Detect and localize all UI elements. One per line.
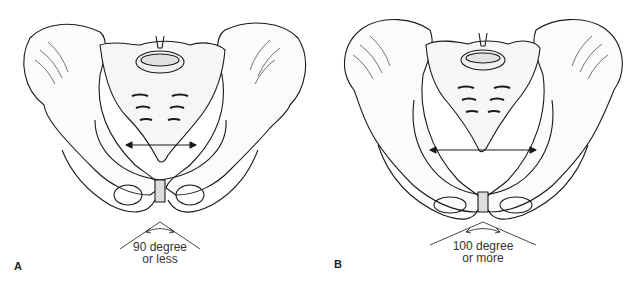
panel-label-a: A: [14, 260, 22, 272]
angle-qualifier-b: or more: [438, 252, 528, 264]
pelvis-illustration-a: [0, 0, 318, 281]
angle-qualifier-a: or less: [115, 253, 205, 265]
pelvis-panel-b: 100 degree or more B: [318, 0, 636, 281]
subpubic-angle-label-b: 100 degree or more: [438, 240, 528, 264]
panel-label-b: B: [334, 258, 342, 270]
subpubic-angle-label-a: 90 degree or less: [115, 241, 205, 265]
pelvis-panel-a: 90 degree or less A: [0, 0, 318, 281]
